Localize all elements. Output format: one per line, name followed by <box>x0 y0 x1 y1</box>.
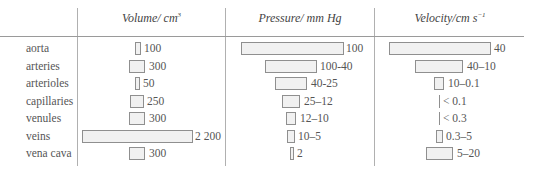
row-label: arteries <box>26 59 60 73</box>
pressure-bar <box>241 42 344 55</box>
header-volume-text: Volume/ cm <box>122 11 178 25</box>
header-velocity-text: Velocity/cm s <box>414 11 477 25</box>
column-divider-2 <box>225 8 226 166</box>
volume-value: 50 <box>143 76 155 90</box>
velocity-value: 40 <box>494 41 506 55</box>
row-label: aorta <box>26 41 49 55</box>
volume-value: 300 <box>149 59 166 73</box>
velocity-bar <box>436 130 443 143</box>
volume-value: 300 <box>149 111 166 125</box>
volume-bar <box>135 42 141 55</box>
header-velocity: Velocity/cm s−1 <box>375 10 525 26</box>
header-pressure: Pressure/ mm Hg <box>226 10 374 26</box>
pressure-bar <box>282 95 300 108</box>
velocity-bar <box>415 60 463 73</box>
pressure-bar <box>286 112 296 125</box>
volume-bar <box>135 77 140 90</box>
volume-value: 100 <box>144 41 161 55</box>
velocity-bar <box>426 147 453 160</box>
pressure-bar <box>287 130 295 143</box>
row-label: capillaries <box>26 94 73 108</box>
column-divider-1 <box>77 8 78 166</box>
velocity-value: 5–20 <box>457 146 480 160</box>
row-label: arterioles <box>26 76 69 90</box>
header-volume: Volume/ cm3 <box>78 10 225 26</box>
velocity-value: 10–0.1 <box>448 76 480 90</box>
volume-bar <box>129 147 145 160</box>
pressure-bar <box>275 77 307 90</box>
volume-value: 250 <box>147 94 164 108</box>
header-volume-sup: 3 <box>178 11 182 19</box>
volume-bar <box>129 60 145 73</box>
header-divider <box>0 36 524 37</box>
pressure-bar <box>290 147 294 160</box>
velocity-value: < 0.3 <box>443 111 467 125</box>
pressure-value: 10–5 <box>298 129 321 143</box>
pressure-value: 12–10 <box>300 111 329 125</box>
row-label: vena cava <box>26 146 72 160</box>
volume-bar <box>129 112 145 125</box>
pressure-value: 100-40 <box>320 59 353 73</box>
column-divider-3 <box>374 8 375 166</box>
pressure-bar <box>265 60 317 73</box>
velocity-value: < 0.1 <box>443 94 467 108</box>
velocity-value: 0.3–5 <box>446 129 472 143</box>
volume-bar <box>82 130 193 143</box>
volume-value: 2 200 <box>195 129 221 143</box>
pressure-value: 40-25 <box>311 76 338 90</box>
header-pressure-text: Pressure/ mm Hg <box>258 11 341 25</box>
volume-value: 300 <box>149 146 166 160</box>
pressure-value: 25–12 <box>304 94 333 108</box>
header-velocity-sup: −1 <box>477 11 485 19</box>
velocity-bar <box>439 112 440 125</box>
velocity-bar <box>434 77 444 90</box>
row-label: veins <box>26 129 50 143</box>
velocity-bar <box>439 95 440 108</box>
velocity-value: 40–10 <box>467 59 496 73</box>
pressure-value: 100 <box>346 41 363 55</box>
pressure-value: 2 <box>297 146 303 160</box>
row-label: venules <box>26 111 61 125</box>
volume-bar <box>130 95 144 108</box>
velocity-bar <box>389 42 491 55</box>
